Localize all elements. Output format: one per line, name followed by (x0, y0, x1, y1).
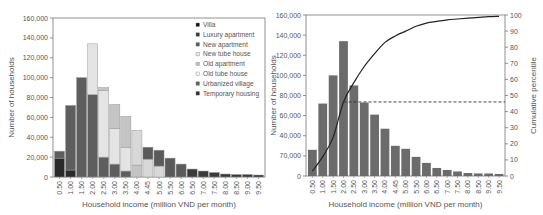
y-tick-label: 140,000 (276, 32, 301, 39)
bar-segment (110, 104, 120, 128)
x-tick-label: 3.50 (371, 180, 378, 194)
legend-swatch (196, 92, 200, 96)
x-tick-label: 2.50 (100, 181, 107, 195)
legend-label: Villa (203, 21, 216, 28)
bar-segment (231, 175, 241, 177)
y-tick-label: 60,000 (27, 114, 49, 121)
bar-segment (88, 95, 98, 177)
bar (484, 173, 493, 176)
y2-tick-label: 10 (510, 156, 518, 163)
legend-swatch (196, 72, 200, 76)
y2-tick-label: 70 (510, 60, 518, 67)
legend-swatch (196, 82, 200, 86)
y-tick-label: 40,000 (280, 132, 302, 139)
bar (474, 173, 483, 176)
bar-segment (220, 174, 230, 177)
y2-tick-label: 20 (510, 140, 518, 147)
legend-swatch (196, 33, 200, 37)
bar-segment (187, 169, 197, 177)
y-tick-label: 100,000 (276, 72, 301, 79)
x-tick-label: 8.00 (222, 181, 229, 195)
bar (495, 174, 504, 176)
x-tick-label: 9.00 (244, 181, 251, 195)
y-tick-label: 80,000 (27, 94, 49, 101)
legend-label: Luxury apartment (203, 31, 254, 39)
x-tick-label: 7.50 (211, 181, 218, 195)
legend-item: Villa (196, 21, 216, 28)
x-tick-label: 7.00 (200, 181, 207, 195)
bar-segment (88, 44, 98, 95)
legend-label: Temporary housing (203, 90, 259, 98)
x-tick-label: 9.50 (255, 181, 262, 195)
y-tick-label: 0 (44, 174, 48, 181)
legend-swatch (196, 62, 200, 65)
bar (381, 129, 390, 176)
bar-segment (132, 165, 142, 177)
x-tick-label: 1.50 (330, 180, 337, 194)
bar-segment (154, 166, 164, 177)
legend: VillaLuxury apartmentNew apartmentNew tu… (196, 21, 259, 98)
bar (339, 41, 348, 176)
bar (443, 170, 452, 176)
legend-item: Urbanized village (196, 80, 254, 88)
bar (401, 149, 410, 176)
bar-segment (99, 88, 109, 91)
bar (391, 146, 400, 176)
bar-segment (143, 147, 153, 159)
x-tick-label: 7.50 (454, 180, 461, 194)
x-tick-label: 5.50 (413, 180, 420, 194)
bar-segment (121, 147, 131, 171)
x-tick-label: 1.50 (78, 181, 85, 195)
legend-label: New apartment (203, 41, 248, 49)
y-tick-label: 100,000 (23, 74, 48, 81)
bar-segment (143, 159, 153, 177)
y2-tick-label: 0 (510, 173, 514, 180)
bar (360, 103, 369, 176)
y-tick-label: 40,000 (27, 134, 49, 141)
bar-segment (121, 116, 131, 147)
bar-segment (99, 157, 109, 177)
y-tick-label: 80,000 (280, 92, 302, 99)
x-tick-label: 9.00 (485, 180, 492, 194)
y-tick-label: 120,000 (23, 54, 48, 61)
y-tick-label: 120,000 (276, 52, 301, 59)
bar-segment (55, 151, 65, 158)
x-tick-label: 9.50 (496, 180, 503, 194)
x-tick-label: 5.00 (402, 180, 409, 194)
y2-tick-label: 60 (510, 76, 518, 83)
x-tick-label: 2.50 (350, 180, 357, 194)
x-tick-label: 4.00 (133, 181, 140, 195)
bar-segment (66, 170, 76, 177)
bar (370, 115, 379, 176)
y2-tick-label: 90 (510, 28, 518, 35)
y-tick-label: 20,000 (27, 154, 49, 161)
bar-segment (121, 171, 131, 177)
x-tick-label: 8.50 (233, 181, 240, 195)
bar (412, 157, 421, 176)
legend-item: Temporary housing (196, 90, 259, 98)
bar-segment (253, 175, 263, 177)
y-axis-label: Number of households (7, 57, 16, 138)
stacked-bar-chart-housing-type: 020,00040,00060,00080,000100,000120,0001… (0, 0, 270, 215)
bar-chart-cumulative-percentile: 070,00040,00060,00080,000100,000120,0001… (270, 0, 543, 215)
bar-segment (209, 173, 219, 177)
y2-tick-label: 80 (510, 44, 518, 51)
bar (349, 85, 358, 176)
x-tick-label: 6.00 (423, 180, 430, 194)
legend-item: Old tube house (196, 70, 248, 77)
bar-segment (110, 164, 120, 177)
x-tick-label: 3.00 (361, 180, 368, 194)
y2-axis-label: Cumulative percentile (529, 56, 538, 133)
y2-tick-label: 40 (510, 108, 518, 115)
x-tick-label: 2.00 (340, 180, 347, 194)
x-tick-label: 0.50 (56, 181, 63, 195)
x-axis-label: Household income (million VND per month) (82, 200, 236, 209)
x-tick-label: 7.00 (444, 180, 451, 194)
bar-segment (55, 158, 65, 177)
y-tick-label: 140,000 (23, 34, 48, 41)
legend-label: Old tube house (203, 70, 248, 77)
x-tick-label: 4.00 (381, 180, 388, 194)
x-tick-label: 6.00 (178, 181, 185, 195)
legend-swatch (196, 52, 200, 56)
bar (464, 173, 473, 176)
